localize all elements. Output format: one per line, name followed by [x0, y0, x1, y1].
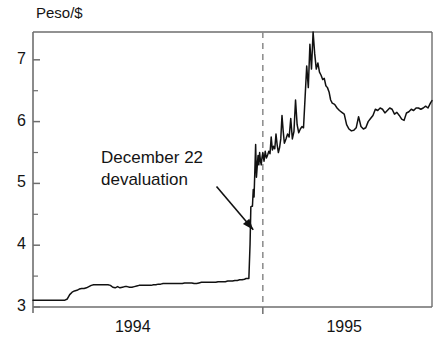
y-tick-label: 3 — [8, 297, 26, 315]
x-tick-label: 1995 — [309, 318, 379, 336]
annotation-arrow — [217, 186, 254, 229]
y-tick-label: 4 — [8, 235, 26, 253]
x-tick-label: 1994 — [98, 318, 168, 336]
y-tick-label: 6 — [8, 112, 26, 130]
chart-canvas — [0, 0, 446, 352]
y-tick-label: 7 — [8, 50, 26, 68]
y-tick-label: 5 — [8, 173, 26, 191]
series-line-peso-per-dollar — [33, 32, 432, 300]
y-axis-title: Peso/$ — [36, 4, 83, 21]
devaluation-annotation-text: December 22 devaluation — [101, 147, 203, 191]
axes — [33, 32, 432, 314]
chart-figure: Peso/$ 34567 19941995 December 22 devalu… — [0, 0, 446, 352]
data-series — [33, 32, 432, 300]
